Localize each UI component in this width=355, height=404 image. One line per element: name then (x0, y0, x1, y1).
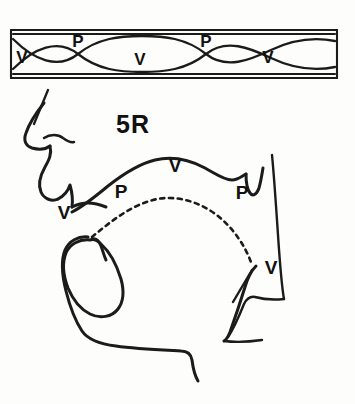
tube-label-p-2: P (200, 32, 211, 51)
tract-label-p-oral: P (115, 181, 128, 202)
figure-caption: 5R (116, 110, 150, 138)
tube-label-v-1: V (16, 48, 28, 67)
tube-panel-group (11, 30, 337, 124)
tube-label-v-2: V (134, 50, 146, 69)
figure-container: 5R (0, 0, 355, 404)
tract-label-v-palatal: V (169, 155, 182, 176)
upper-lip-profile (40, 146, 58, 200)
lower-lip-profile (72, 203, 106, 207)
tract-label-v-lips: V (58, 202, 71, 223)
tube-label-group: V P V P V (16, 32, 274, 69)
face-profile-nose (25, 103, 50, 149)
figure-drawing: 5R (0, 0, 355, 404)
nostril-hook (44, 135, 74, 142)
larynx-floor (224, 340, 262, 342)
tract-label-v-pharyngeal: V (265, 257, 278, 278)
standing-wave-curve-upper (13, 46, 335, 72)
uvula (246, 168, 263, 195)
standing-wave-curve-lower (13, 36, 335, 62)
tube-label-v-3: V (262, 48, 274, 67)
tract-panel-group (25, 103, 284, 381)
tongue-tip-ridge (92, 239, 106, 260)
tube-label-p-1: P (72, 32, 83, 51)
epiglottis (224, 266, 256, 341)
tract-label-p-velar: P (236, 182, 249, 203)
tongue-body (64, 240, 123, 317)
standing-wave-arch-dashed (92, 198, 251, 262)
